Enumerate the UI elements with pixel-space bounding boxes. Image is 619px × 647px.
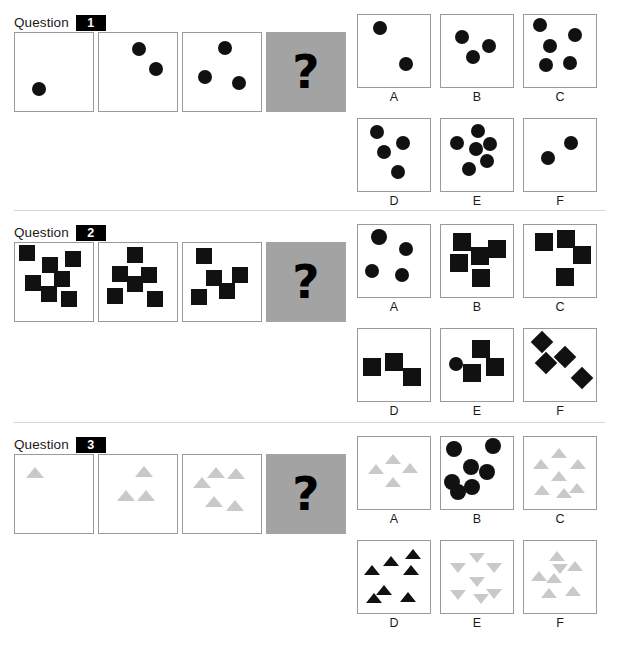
circle-shape [480, 154, 494, 168]
tri-shape [137, 490, 155, 501]
square-shape [54, 271, 70, 287]
circle-shape [564, 136, 578, 150]
option-d-label: D [357, 194, 431, 208]
circle-shape [563, 56, 577, 70]
option-e-box[interactable] [440, 118, 514, 192]
tri-shape [135, 466, 153, 477]
tri-shape [565, 586, 581, 596]
square-shape [61, 291, 77, 307]
sequence-panel-2 [98, 454, 178, 534]
tri-shape [551, 471, 567, 481]
circle-shape [450, 484, 466, 500]
sequence-panel-2 [98, 242, 178, 322]
tri-shape [570, 459, 586, 469]
question-label: Question [14, 224, 69, 242]
sequence-panel-unknown[interactable]: ? [266, 242, 346, 322]
option-d[interactable]: D [357, 540, 431, 632]
tri-shape [385, 477, 401, 487]
option-f-box[interactable] [523, 328, 597, 402]
circle-shape [370, 125, 384, 139]
tri-shape [383, 556, 399, 566]
option-b-label: B [440, 512, 514, 526]
sequence-panel-1 [14, 242, 94, 322]
option-e[interactable]: E [440, 328, 514, 420]
option-a[interactable]: A [357, 14, 431, 106]
circle-shape [533, 18, 547, 32]
option-b-label: B [440, 300, 514, 314]
circle-shape [450, 136, 464, 150]
tri-shape [366, 593, 382, 603]
option-f-label: F [523, 404, 597, 418]
option-c-box[interactable] [523, 14, 597, 88]
option-f-label: F [523, 616, 597, 630]
option-a-box[interactable] [357, 224, 431, 298]
sequence-panel-3 [182, 32, 262, 112]
circle-shape [449, 357, 463, 371]
square-shape [363, 358, 381, 376]
tri-shape [567, 561, 583, 571]
option-d-label: D [357, 404, 431, 418]
option-a-box[interactable] [357, 14, 431, 88]
option-e[interactable]: E [440, 118, 514, 210]
square-shape [19, 245, 35, 261]
option-f[interactable]: F [523, 540, 597, 632]
square-shape [488, 240, 506, 258]
option-e-box[interactable] [440, 328, 514, 402]
option-f-box[interactable] [523, 540, 597, 614]
tri-shape [205, 496, 223, 507]
option-b[interactable]: B [440, 436, 514, 528]
option-b-box[interactable] [440, 14, 514, 88]
square-shape [535, 233, 553, 251]
option-a[interactable]: A [357, 436, 431, 528]
circle-shape [371, 229, 387, 245]
square-shape [25, 275, 41, 291]
square-shape [472, 269, 490, 287]
option-b-box[interactable] [440, 436, 514, 510]
option-b-box[interactable] [440, 224, 514, 298]
option-a[interactable]: A [357, 224, 431, 316]
circle-shape [132, 42, 146, 56]
circle-shape [399, 57, 413, 71]
option-f-box[interactable] [523, 118, 597, 192]
option-e[interactable]: E [440, 540, 514, 632]
option-d-box[interactable] [357, 540, 431, 614]
option-c-box[interactable] [523, 436, 597, 510]
tri-shape [541, 588, 557, 598]
option-d[interactable]: D [357, 328, 431, 420]
option-a-label: A [357, 512, 431, 526]
sequence-panel-1 [14, 32, 94, 112]
option-c[interactable]: C [523, 436, 597, 528]
option-a-box[interactable] [357, 436, 431, 510]
square-shape [472, 340, 490, 358]
circle-shape [446, 441, 462, 457]
diamond-shape [571, 367, 594, 390]
sequence-panel-unknown[interactable]: ? [266, 32, 346, 112]
diamond-shape [531, 331, 554, 354]
sequence-panel-3 [182, 242, 262, 322]
sequence-panel-unknown[interactable]: ? [266, 454, 346, 534]
circle-shape [469, 142, 483, 156]
question-separator-1 [14, 210, 605, 211]
option-f[interactable]: F [523, 328, 597, 420]
tri-shape [402, 463, 418, 473]
option-c-label: C [523, 512, 597, 526]
option-c[interactable]: C [523, 14, 597, 106]
circle-shape [539, 58, 553, 72]
option-f[interactable]: F [523, 118, 597, 210]
option-d-box[interactable] [357, 118, 431, 192]
option-b[interactable]: B [440, 224, 514, 316]
option-c-box[interactable] [523, 224, 597, 298]
question-label: Question [14, 436, 69, 454]
option-c[interactable]: C [523, 224, 597, 316]
square-shape [556, 268, 574, 286]
option-d-box[interactable] [357, 328, 431, 402]
tri-down-shape [450, 590, 466, 600]
option-d[interactable]: D [357, 118, 431, 210]
circle-shape [482, 39, 496, 53]
circle-shape [377, 145, 391, 159]
sequence-panel-3 [182, 454, 262, 534]
tri-shape [405, 549, 421, 559]
tri-down-shape [486, 563, 502, 573]
option-e-box[interactable] [440, 540, 514, 614]
option-b[interactable]: B [440, 14, 514, 106]
